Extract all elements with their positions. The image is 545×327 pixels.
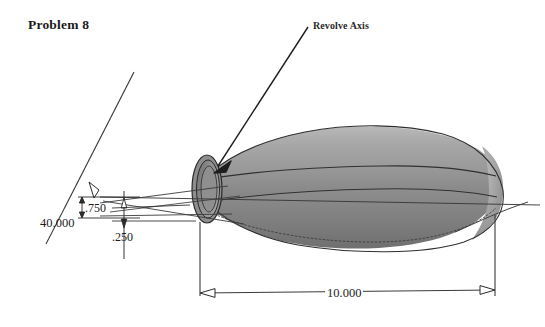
angle-construction-ray-extension [46, 209, 64, 244]
dim-750-arrow-top [79, 197, 84, 203]
length-arrowhead-left [200, 289, 215, 298]
dim-250-arrow-lower [121, 219, 127, 228]
length-dimension-line [201, 290, 494, 293]
angle-dimension-arrowhead [89, 182, 99, 198]
revolved-solid-model [192, 126, 503, 252]
dimension-250 [112, 191, 196, 259]
dim-750-arrow-bottom [79, 212, 84, 218]
engineering-drawing-canvas [0, 0, 545, 327]
length-arrowhead-right [480, 286, 495, 295]
angle-construction-ray [64, 72, 134, 209]
